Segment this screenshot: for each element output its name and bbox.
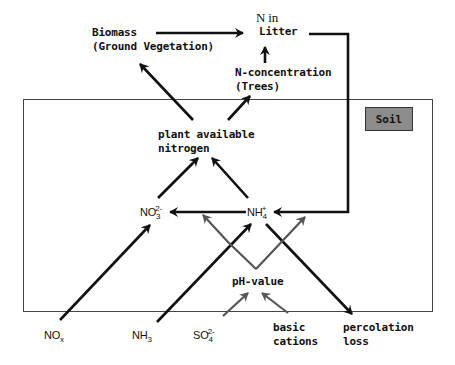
node-nitrate: NO32- [140, 205, 162, 219]
n-in-litter-line2: Litter [259, 25, 298, 39]
arrow-nox-to-no3 [60, 225, 150, 320]
nitrate-sup: 2- [155, 204, 162, 213]
node-nox: NOx [44, 328, 64, 342]
pan-line1: plant available [158, 128, 254, 142]
nh3-sub: 3 [148, 335, 152, 344]
ammonium-base: NH [247, 206, 263, 218]
node-percolation-loss: percolation loss [343, 321, 414, 349]
arrow-nh3-to-nh4 [157, 224, 251, 322]
n-concentration-line1: N-concentration [235, 66, 331, 80]
biomass-line1: Biomass [92, 26, 214, 40]
flow-arrows [0, 0, 455, 365]
sulfate-sup: 2- [208, 327, 215, 336]
ammonium-sup: + [262, 204, 266, 213]
node-n-concentration: N-concentration (Trees) [235, 66, 331, 94]
node-n-in-litter: N in Litter [256, 10, 298, 39]
arrow-cations-to-ph [262, 293, 288, 313]
n-in-litter-line1: N in [256, 10, 298, 25]
arrow-so4-to-ph [223, 293, 248, 316]
nitrate-base: NO [140, 206, 156, 218]
node-biomass: Biomass (Ground Vegetation) [92, 26, 214, 54]
nox-sub: x [60, 335, 64, 344]
arrow-pan-to-nconc [228, 96, 250, 120]
arrow-nh4-to-pan [212, 158, 248, 198]
node-ammonium: NH4+ [247, 205, 266, 219]
basic-cations-line2: cations [273, 335, 318, 349]
percolation-loss-line2: loss [343, 335, 414, 349]
node-ph-value: pH-value [232, 275, 283, 289]
node-plant-available-nitrogen: plant available nitrogen [158, 128, 254, 156]
arrow-nh4-to-percolation [266, 224, 352, 314]
biomass-line2: (Ground Vegetation) [92, 40, 214, 54]
n-concentration-line2: (Trees) [235, 80, 331, 94]
nh3-base: NH [132, 329, 148, 341]
basic-cations-line1: basic [273, 321, 318, 335]
pan-line2: nitrogen [158, 142, 254, 156]
node-nh3: NH3 [132, 328, 152, 342]
node-sulfate: SO42- [193, 328, 214, 342]
arrow-ph-to-no3 [203, 215, 256, 269]
node-basic-cations: basic cations [273, 321, 318, 349]
percolation-loss-line1: percolation [343, 321, 414, 335]
nox-base: NO [44, 329, 60, 341]
arrow-no3-to-pan [158, 158, 198, 198]
arrow-ph-to-nh4 [256, 217, 305, 269]
sulfate-base: SO [193, 329, 209, 341]
arrow-litter-to-nh4 [274, 34, 348, 212]
nitrate-sub: 3 [156, 212, 160, 221]
sulfate-sub: 4 [209, 335, 213, 344]
ammonium-sub: 4 [263, 212, 267, 221]
arrow-pan-to-biomass [140, 64, 193, 120]
